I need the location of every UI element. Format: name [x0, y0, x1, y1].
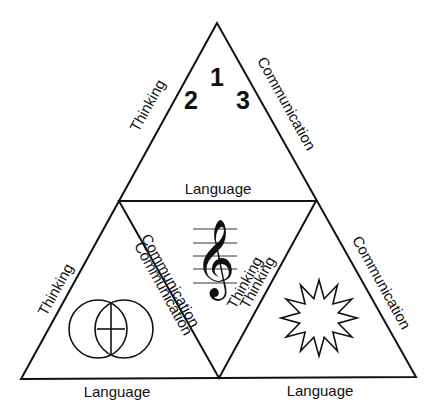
top-left-label: Thinking	[126, 76, 168, 134]
top-bottom-label: Language	[185, 180, 252, 197]
triangle-diagram: 1 2 3 Thinking Communication Language 𝄞 …	[0, 0, 439, 420]
number-3: 3	[236, 86, 250, 114]
overlapping-circles-icon	[69, 300, 153, 358]
treble-clef-icon: 𝄞	[195, 218, 235, 301]
star-icon	[281, 280, 357, 356]
right-bottom-label: Language	[287, 382, 354, 399]
top-right-label: Communication	[254, 54, 319, 153]
number-1: 1	[210, 63, 224, 91]
number-2: 2	[184, 86, 198, 114]
left-bottom-label: Language	[84, 383, 151, 400]
